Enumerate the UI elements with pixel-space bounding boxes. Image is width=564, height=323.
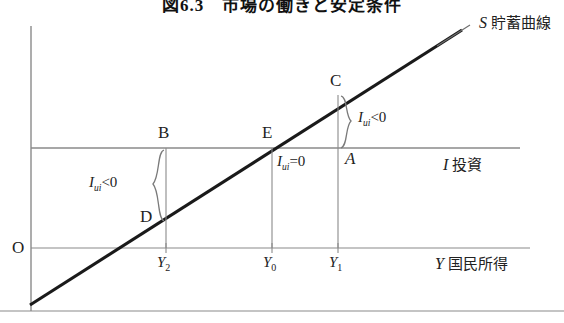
annotation-left-relation: <: [101, 174, 109, 190]
investment-line-symbol: I: [443, 156, 448, 173]
brace-left: [153, 150, 164, 221]
point-c-label: C: [330, 72, 341, 89]
annotation-left: Iui<0: [89, 175, 117, 194]
savings-curve-name: 貯蓄曲線: [491, 14, 551, 32]
savings-curve: [30, 30, 462, 305]
tick-label-y2-sub: 2: [165, 262, 170, 273]
x-axis-name: 国民所得: [448, 255, 508, 273]
tick-label-y0: Y0: [263, 255, 276, 273]
point-e-label: E: [262, 124, 272, 141]
annotation-middle: Iui=0: [277, 154, 305, 173]
investment-line-label: I 投資: [443, 157, 482, 173]
annotation-left-value: 0: [110, 174, 118, 190]
tick-label-y1: Y1: [329, 255, 342, 273]
x-axis-symbol: Y: [435, 255, 444, 272]
tick-label-y2: Y2: [157, 255, 170, 273]
point-d-label: D: [140, 208, 152, 225]
annotation-middle-relation: =: [289, 153, 297, 169]
savings-curve-leader: [437, 25, 470, 46]
investment-line-name: 投資: [452, 156, 482, 174]
savings-curve-label: S 貯蓄曲線: [479, 15, 551, 31]
figure-container: 図6.3 市場の働きと安定条件 S 貯蓄曲線: [0, 0, 564, 323]
point-a-label: A: [345, 150, 355, 167]
brace-right: [341, 96, 351, 148]
tick-label-y0-sub: 0: [271, 262, 276, 273]
savings-curve-symbol: S: [479, 14, 487, 31]
annotation-right-value: 0: [379, 109, 387, 125]
origin-label: O: [12, 239, 24, 256]
x-axis-label: Y 国民所得: [435, 256, 508, 272]
annotation-right: Iui<0: [358, 110, 386, 129]
tick-label-y1-sub: 1: [337, 262, 342, 273]
point-b-label: B: [158, 124, 169, 141]
annotation-right-relation: <: [370, 109, 378, 125]
annotation-middle-value: 0: [298, 153, 306, 169]
